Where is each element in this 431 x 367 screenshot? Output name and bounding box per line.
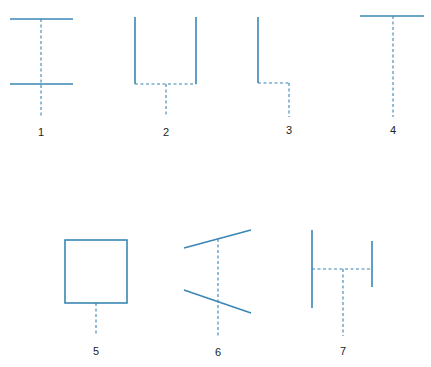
figure-1: 1 <box>10 19 73 138</box>
figure-2: 2 <box>135 17 196 138</box>
figure-label-6: 6 <box>215 346 221 358</box>
figure-label-2: 2 <box>163 126 169 138</box>
figure-label-7: 7 <box>340 345 346 357</box>
diagram-canvas: 1 2 3 4 5 6 7 <box>0 0 431 367</box>
figure-6: 6 <box>184 230 251 358</box>
figure-label-4: 4 <box>390 124 396 136</box>
figure-label-3: 3 <box>286 124 292 136</box>
figure-4: 4 <box>360 16 424 136</box>
figure-5: 5 <box>65 240 127 357</box>
figure-label-5: 5 <box>93 345 99 357</box>
figure-label-1: 1 <box>38 126 44 138</box>
figure-7: 7 <box>312 230 372 357</box>
figure-3: 3 <box>258 17 292 136</box>
